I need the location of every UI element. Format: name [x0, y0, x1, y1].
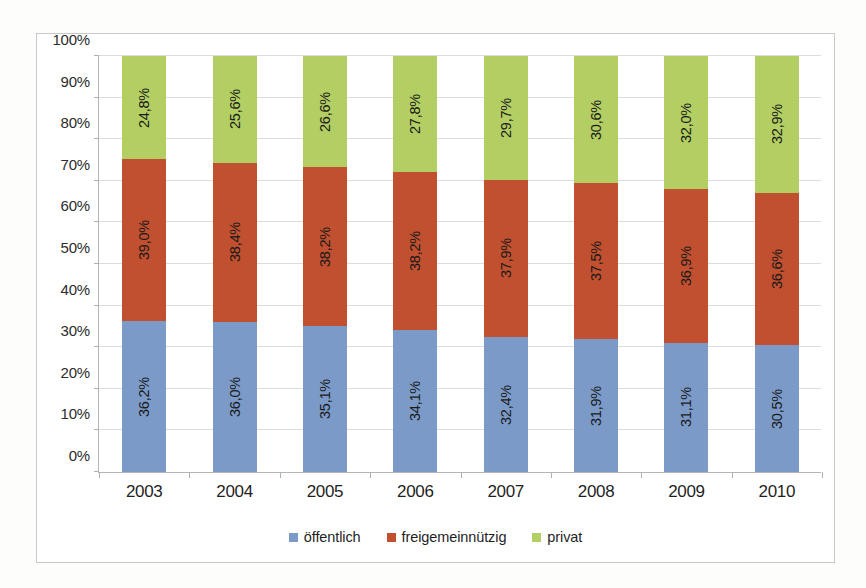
bar-value-label: 32,0%	[678, 103, 694, 143]
chart-legend: öffentlichfreigemeinnützigprivat	[37, 529, 834, 545]
bar-group[interactable]: 31,9%37,5%30,6%	[574, 56, 618, 472]
gridline	[99, 388, 821, 389]
y-axis-tick-label: 90%	[61, 72, 90, 89]
bar-segment[interactable]: 32,0%	[664, 56, 708, 189]
bar-segment[interactable]: 32,4%	[484, 337, 528, 472]
bar-value-label: 38,2%	[317, 226, 333, 266]
bar-segment[interactable]: 24,8%	[122, 56, 166, 159]
gridline	[99, 263, 821, 264]
legend-label: öffentlich	[304, 529, 361, 545]
x-axis-tick	[99, 472, 100, 478]
bar-segment[interactable]: 35,1%	[303, 326, 347, 472]
gridline	[99, 97, 821, 98]
bar-segment[interactable]: 39,0%	[122, 159, 166, 321]
y-axis-tick	[94, 263, 99, 264]
x-axis-tick-label: 2008	[578, 482, 615, 502]
x-axis-tick	[461, 472, 462, 478]
bar-value-label: 38,4%	[227, 222, 243, 262]
bar-group[interactable]: 31,1%36,9%32,0%	[664, 56, 708, 472]
bar-stack: 36,0%38,4%25,6%	[213, 56, 257, 472]
y-axis-tick-label: 40%	[61, 280, 90, 297]
page-background: 0%10%20%30%40%50%60%70%80%90%100% 36,2%3…	[0, 0, 866, 588]
bar-segment[interactable]: 38,2%	[393, 172, 437, 331]
bar-value-label: 30,6%	[588, 100, 604, 140]
bar-stack: 32,4%37,9%29,7%	[484, 56, 528, 472]
bar-group[interactable]: 36,2%39,0%24,8%	[122, 56, 166, 472]
legend-swatch-icon	[532, 533, 541, 542]
x-axis-tick-label: 2010	[759, 482, 796, 502]
legend-item[interactable]: privat	[532, 529, 582, 545]
gridline	[99, 138, 821, 139]
y-axis-tick	[94, 138, 99, 139]
bar-value-label: 31,9%	[588, 386, 604, 426]
y-axis-tick	[94, 97, 99, 98]
gridline	[99, 221, 821, 222]
legend-item[interactable]: öffentlich	[289, 529, 361, 545]
bar-stack: 34,1%38,2%27,8%	[393, 56, 437, 472]
x-axis-tick	[732, 472, 733, 478]
bar-segment[interactable]: 29,7%	[484, 56, 528, 180]
bar-segment[interactable]: 38,2%	[303, 167, 347, 326]
x-axis-tick-label: 2009	[668, 482, 705, 502]
y-axis-tick	[94, 305, 99, 306]
bar-segment[interactable]: 31,9%	[574, 339, 618, 472]
y-axis-tick-label: 100%	[52, 31, 90, 48]
bar-value-label: 39,0%	[136, 220, 152, 260]
bar-stack: 36,2%39,0%24,8%	[122, 56, 166, 472]
bar-segment[interactable]: 31,1%	[664, 343, 708, 472]
x-axis-tick	[370, 472, 371, 478]
bar-group[interactable]: 36,0%38,4%25,6%	[213, 56, 257, 472]
bar-group[interactable]: 35,1%38,2%26,6%	[303, 56, 347, 472]
legend-item[interactable]: freigemeinnützig	[387, 529, 507, 545]
bar-group[interactable]: 30,5%36,6%32,9%	[755, 56, 799, 472]
bar-segment[interactable]: 34,1%	[393, 330, 437, 472]
bar-value-label: 36,9%	[678, 246, 694, 286]
gridline	[99, 346, 821, 347]
bar-segment[interactable]: 32,9%	[755, 56, 799, 193]
y-axis-tick	[94, 55, 99, 56]
bar-value-label: 32,4%	[498, 385, 514, 425]
bar-segment[interactable]: 38,4%	[213, 163, 257, 323]
x-axis-tick	[551, 472, 552, 478]
bar-segment[interactable]: 30,5%	[755, 345, 799, 472]
bar-value-label: 26,6%	[317, 92, 333, 132]
bar-segment[interactable]: 37,9%	[484, 180, 528, 338]
x-axis-tick	[822, 472, 823, 478]
x-axis-tick-label: 2003	[126, 482, 163, 502]
legend-label: freigemeinnützig	[402, 529, 507, 545]
x-axis-tick-label: 2004	[216, 482, 253, 502]
gridline	[99, 55, 821, 56]
bar-segment[interactable]: 30,6%	[574, 56, 618, 183]
chart-frame: 0%10%20%30%40%50%60%70%80%90%100% 36,2%3…	[36, 33, 835, 563]
bar-group[interactable]: 34,1%38,2%27,8%	[393, 56, 437, 472]
y-axis-tick	[94, 388, 99, 389]
bar-segment[interactable]: 27,8%	[393, 56, 437, 172]
y-axis-tick	[94, 180, 99, 181]
bar-value-label: 25,6%	[227, 89, 243, 129]
legend-label: privat	[547, 529, 582, 545]
bar-value-label: 30,5%	[769, 389, 785, 429]
y-axis-tick-label: 30%	[61, 322, 90, 339]
bar-segment[interactable]: 36,0%	[213, 322, 257, 472]
bar-value-label: 36,6%	[769, 249, 785, 289]
bar-group[interactable]: 32,4%37,9%29,7%	[484, 56, 528, 472]
bar-value-label: 35,1%	[317, 379, 333, 419]
plot-area: 0%10%20%30%40%50%60%70%80%90%100% 36,2%3…	[98, 56, 821, 473]
x-axis-tick	[189, 472, 190, 478]
x-axis-tick	[280, 472, 281, 478]
bar-stack: 35,1%38,2%26,6%	[303, 56, 347, 472]
bar-segment[interactable]: 36,2%	[122, 321, 166, 472]
y-axis-tick	[94, 221, 99, 222]
legend-swatch-icon	[387, 533, 396, 542]
y-axis-tick-label: 60%	[61, 197, 90, 214]
y-axis-tick-label: 10%	[61, 405, 90, 422]
bar-segment[interactable]: 36,9%	[664, 189, 708, 343]
legend-swatch-icon	[289, 533, 298, 542]
bar-segment[interactable]: 37,5%	[574, 183, 618, 339]
x-axis-tick	[641, 472, 642, 478]
bar-segment[interactable]: 25,6%	[213, 56, 257, 162]
bar-value-label: 29,7%	[498, 98, 514, 138]
bar-segment[interactable]: 26,6%	[303, 56, 347, 167]
bar-segment[interactable]: 36,6%	[755, 193, 799, 345]
gridline	[99, 429, 821, 430]
